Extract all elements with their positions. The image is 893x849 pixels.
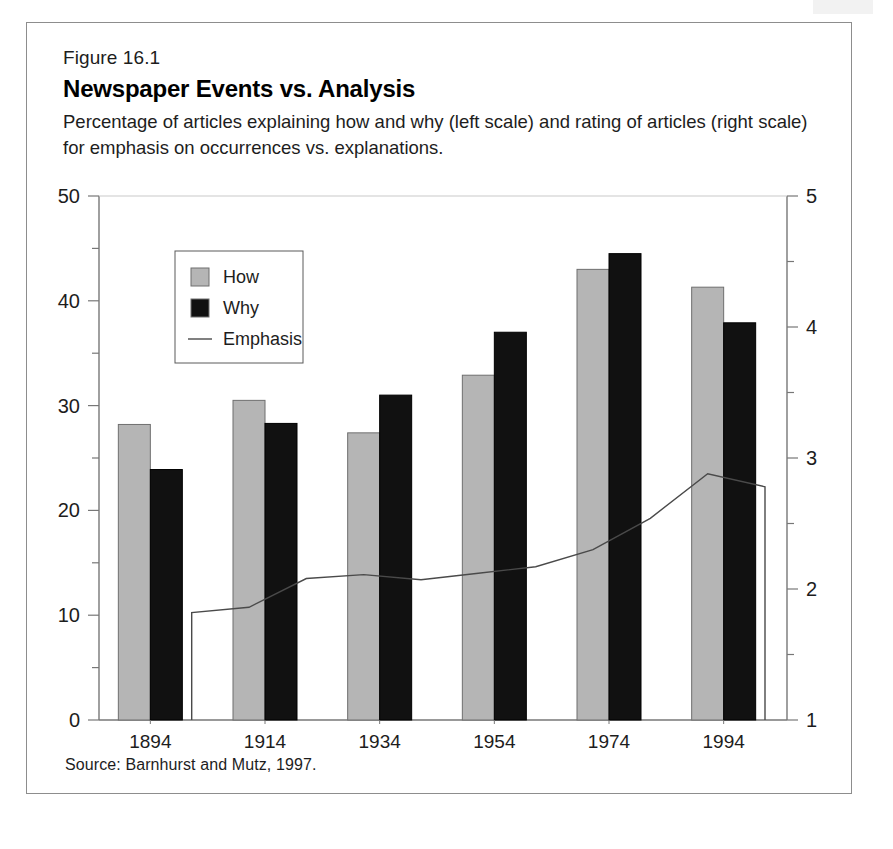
left-axis-tick-label: 20 xyxy=(58,499,80,521)
bar-why xyxy=(150,470,182,720)
bar-how xyxy=(348,433,380,720)
bar-how xyxy=(577,269,609,720)
right-axis-tick-label: 3 xyxy=(806,447,817,469)
left-axis-tick-label: 40 xyxy=(58,290,80,312)
bar-how xyxy=(118,424,150,720)
left-axis-tick-label: 50 xyxy=(58,185,80,207)
chart-plot-area: 0102030405012345189419141934195419741994… xyxy=(27,23,853,795)
legend-label: Why xyxy=(223,298,259,318)
right-axis-tick-label: 2 xyxy=(806,578,817,600)
bar-why xyxy=(609,254,641,720)
x-axis-tick-label: 1994 xyxy=(703,731,746,752)
legend-swatch-how xyxy=(191,268,209,286)
x-axis-tick-label: 1934 xyxy=(359,731,402,752)
left-axis-tick-label: 0 xyxy=(69,709,80,731)
page-edge-artifact xyxy=(813,0,873,14)
right-axis-tick-label: 1 xyxy=(806,709,817,731)
bar-why xyxy=(380,395,412,720)
x-axis-tick-label: 1974 xyxy=(588,731,631,752)
x-axis-tick-label: 1954 xyxy=(473,731,516,752)
chart-svg: 0102030405012345189419141934195419741994… xyxy=(27,23,853,795)
left-axis-tick-label: 10 xyxy=(58,604,80,626)
bar-why xyxy=(494,332,526,720)
x-axis-tick-label: 1894 xyxy=(129,731,172,752)
bar-why xyxy=(265,423,297,720)
right-axis-tick-label: 5 xyxy=(806,185,817,207)
legend-label: How xyxy=(223,267,260,287)
bar-how xyxy=(233,400,265,720)
source-note: Source: Barnhurst and Mutz, 1997. xyxy=(65,756,316,774)
bar-how xyxy=(462,375,494,720)
bar-why xyxy=(724,323,756,720)
legend-label: Emphasis xyxy=(223,329,302,349)
right-axis-tick-label: 4 xyxy=(806,316,817,338)
legend-swatch-why xyxy=(191,299,209,317)
figure-container: Figure 16.1 Newspaper Events vs. Analysi… xyxy=(26,22,852,794)
left-axis-tick-label: 30 xyxy=(58,395,80,417)
x-axis-tick-label: 1914 xyxy=(244,731,287,752)
bar-how xyxy=(692,287,724,720)
